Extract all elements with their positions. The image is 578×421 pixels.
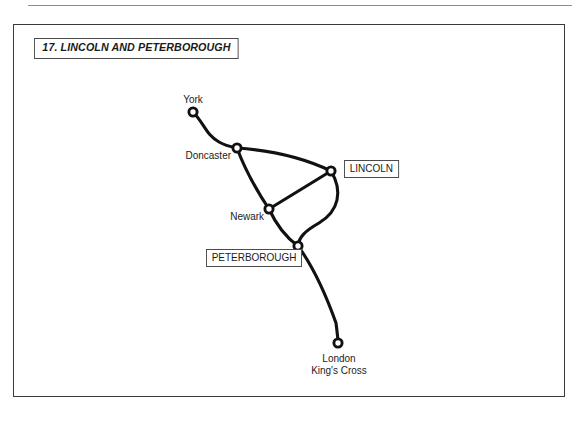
route-map-frame: 17. LINCOLN AND PETERBOROUGH York Doncas… bbox=[13, 24, 565, 397]
station-label-newark: Newark bbox=[207, 210, 264, 222]
station-label-doncaster: Doncaster bbox=[159, 149, 231, 161]
destination-label-lincoln[interactable]: LINCOLN bbox=[344, 160, 399, 178]
station-label-london-line-2: King's Cross bbox=[298, 364, 380, 376]
station-node-london[interactable] bbox=[334, 339, 342, 347]
station-node-newark[interactable] bbox=[265, 205, 273, 213]
station-node-york[interactable] bbox=[189, 108, 197, 116]
station-node-lincoln[interactable] bbox=[327, 167, 335, 175]
track-york-doncaster bbox=[193, 112, 237, 148]
route-diagram-canvas bbox=[14, 25, 566, 398]
station-label-york: York bbox=[167, 93, 218, 105]
destination-label-peterborough[interactable]: PETERBOROUGH bbox=[206, 249, 302, 267]
page-top-rule bbox=[28, 5, 572, 6]
track-doncaster-lincoln bbox=[237, 148, 331, 171]
station-label-london-line-1: London bbox=[298, 352, 380, 364]
track-lincoln-peterborough bbox=[298, 171, 338, 246]
track-doncaster-newark bbox=[237, 148, 269, 209]
station-node-doncaster[interactable] bbox=[233, 144, 241, 152]
track-newark-lincoln bbox=[269, 171, 331, 209]
track-newark-peterborough bbox=[269, 209, 298, 246]
track-peterborough-london bbox=[298, 246, 338, 343]
station-label-london: London King's Cross bbox=[298, 352, 380, 377]
